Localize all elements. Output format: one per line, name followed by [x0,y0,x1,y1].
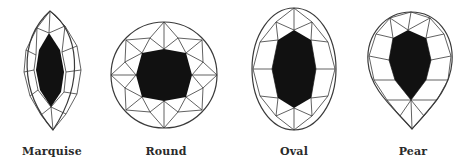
marquise-diamond-icon [24,11,81,130]
label-oval: Oval [280,145,308,158]
label-pear: Pear [399,145,428,158]
label-marquise: Marquise [22,145,82,158]
pear-diamond-icon [368,12,452,129]
label-round: Round [145,145,186,158]
diamond-shapes-figure: Marquise Round Oval Pear [0,0,468,166]
round-diamond-icon [111,22,217,128]
oval-diamond-icon [252,8,336,130]
diamond-shapes-drawing [0,0,468,166]
